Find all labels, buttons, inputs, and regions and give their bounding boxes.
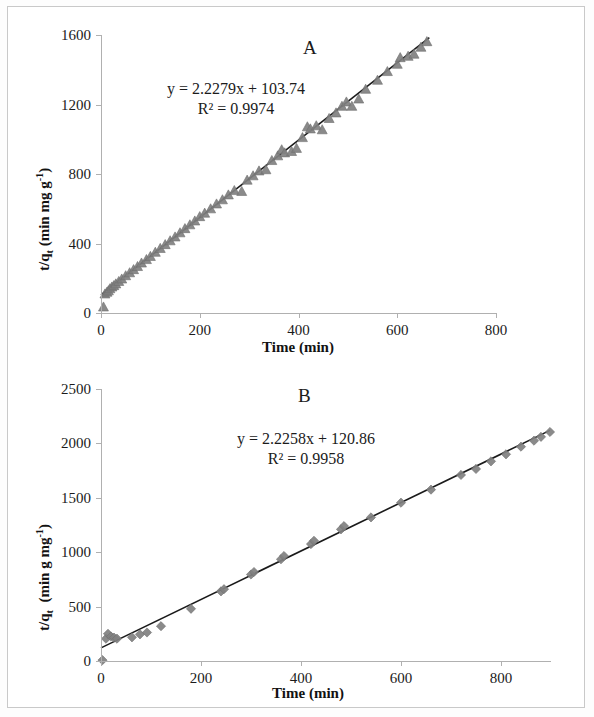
regression-equation-a: y = 2.2279x + 103.74 [167, 79, 305, 99]
y-axis-tick [96, 105, 101, 106]
x-axis-tick-label: 800 [485, 322, 508, 339]
x-axis-tick-label: 400 [290, 670, 313, 687]
x-axis-tick-label: 600 [390, 670, 413, 687]
x-axis-tick [401, 661, 402, 666]
data-point-marker [142, 628, 151, 637]
y-axis-tick-label: 0 [37, 305, 91, 322]
r-squared-b: R² = 0.9958 [237, 449, 375, 469]
data-point-marker [501, 450, 510, 459]
y-axis-tick [96, 607, 101, 608]
y-axis-tick [96, 498, 101, 499]
x-axis-title-b: Time (min) [272, 685, 344, 702]
x-axis-tick [201, 661, 202, 666]
y-axis-line [101, 35, 102, 313]
equation-annotation-b: y = 2.2258x + 120.86 R² = 0.9958 [237, 429, 375, 469]
r-squared-a: R² = 0.9974 [167, 99, 305, 119]
y-axis-title-a-text: t/qt (min mg g-1) [36, 168, 52, 271]
y-axis-tick-label: 400 [37, 235, 91, 252]
regression-equation-b: y = 2.2258x + 120.86 [237, 429, 375, 449]
data-point-marker [471, 464, 480, 473]
data-point-marker [396, 498, 405, 507]
x-axis-tick-label: 0 [97, 670, 105, 687]
x-axis-tick [496, 313, 497, 318]
data-point-marker [545, 427, 554, 436]
y-axis-tick-label: 0 [37, 653, 91, 670]
data-point-marker [311, 121, 321, 130]
x-axis-tick [397, 313, 398, 318]
x-axis-tick-label: 200 [189, 322, 212, 339]
figure-frame: A y = 2.2279x + 103.74 R² = 0.9974 Time … [7, 6, 585, 708]
y-axis-tick-label: 500 [37, 598, 91, 615]
data-point-marker [156, 622, 165, 631]
x-axis-tick [301, 661, 302, 666]
y-axis-tick [96, 389, 101, 390]
x-axis-line [101, 661, 551, 662]
y-axis-line [101, 389, 102, 661]
y-axis-tick [96, 174, 101, 175]
y-axis-tick-label: 2000 [37, 435, 91, 452]
panel-letter-a: A [303, 37, 317, 59]
x-axis-tick [501, 661, 502, 666]
y-axis-tick-label: 800 [37, 166, 91, 183]
data-point-marker [422, 37, 432, 46]
y-axis-tick [96, 244, 101, 245]
x-axis-tick-label: 800 [490, 670, 513, 687]
x-axis-title-a: Time (min) [262, 339, 334, 356]
x-axis-tick-label: 200 [190, 670, 213, 687]
figure-root: A y = 2.2279x + 103.74 R² = 0.9974 Time … [0, 0, 594, 717]
x-axis-tick [101, 313, 102, 318]
y-axis-tick-label: 2500 [37, 381, 91, 398]
y-axis-tick-label: 1600 [37, 27, 91, 44]
x-axis-tick-label: 600 [386, 322, 409, 339]
x-axis-tick [101, 661, 102, 666]
x-axis-tick [200, 313, 201, 318]
panel-letter-b: B [298, 385, 311, 407]
y-axis-tick [96, 443, 101, 444]
data-point-marker [373, 75, 383, 84]
y-axis-tick-label: 1500 [37, 489, 91, 506]
data-point-marker [366, 513, 375, 522]
chart-panel-b: B y = 2.2258x + 120.86 R² = 0.9958 Time … [8, 363, 586, 711]
series-layer-a [8, 9, 586, 361]
x-axis-tick-label: 400 [287, 322, 310, 339]
y-axis-tick-label: 1200 [37, 96, 91, 113]
chart-panel-a: A y = 2.2279x + 103.74 R² = 0.9974 Time … [8, 9, 586, 361]
x-axis-tick [299, 313, 300, 318]
equation-annotation-a: y = 2.2279x + 103.74 R² = 0.9974 [167, 79, 305, 119]
y-axis-title-a: t/qt (min mg g-1) [34, 168, 55, 271]
series-layer-b [8, 363, 586, 711]
y-axis-tick [96, 552, 101, 553]
y-axis-tick [96, 35, 101, 36]
x-axis-tick-label: 0 [97, 322, 105, 339]
data-point-marker [98, 302, 108, 311]
y-axis-tick-label: 1000 [37, 544, 91, 561]
